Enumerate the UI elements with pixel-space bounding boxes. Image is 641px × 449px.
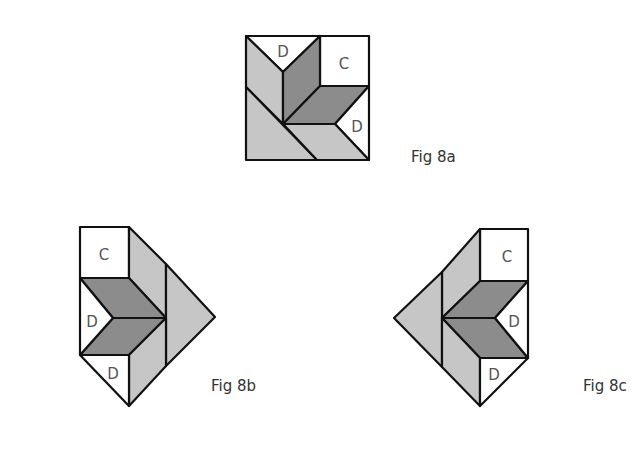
piece-bottom-d-triangle [80, 355, 129, 406]
piece-bottom-d-triangle [480, 358, 528, 406]
label-d-top-d-triangle: D [277, 43, 289, 61]
caption-fig-8a: Fig 8a [411, 148, 456, 166]
label-d-bottom-d-triangle: D [107, 365, 119, 383]
fig-8c: CDD [394, 229, 528, 406]
label-c-c-square: C [502, 248, 512, 266]
label-d-bottom-d-triangle: D [488, 366, 500, 384]
label-d-right-d-triangle: D [351, 118, 363, 136]
diagram-canvas: DCDCDDCDD [0, 0, 641, 449]
fig-8b: CDD [80, 227, 215, 406]
caption-fig-8c: Fig 8c [583, 377, 627, 395]
fig-8a: DCD [246, 36, 369, 160]
label-d-left-d-triangle: D [86, 313, 98, 331]
piece-left-light-triangle [394, 272, 442, 367]
caption-fig-8b: Fig 8b [211, 377, 256, 395]
label-c-c-square: C [99, 246, 109, 264]
label-c-c-square: C [339, 55, 349, 73]
piece-right-light-triangle [166, 264, 215, 366]
label-d-right-d-triangle: D [508, 313, 520, 331]
